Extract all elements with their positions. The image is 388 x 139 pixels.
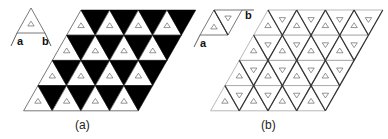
axis-label-b-right: b [245, 9, 252, 21]
axis-label-b-left: b [42, 35, 49, 47]
diagram-canvas [0, 0, 388, 139]
unit-cell-triangle [17, 8, 45, 33]
caption-b: (b) [261, 118, 276, 132]
axis-label-a-left: a [17, 35, 23, 47]
axis-label-a-right: a [200, 37, 206, 49]
caption-a: (a) [75, 118, 90, 132]
